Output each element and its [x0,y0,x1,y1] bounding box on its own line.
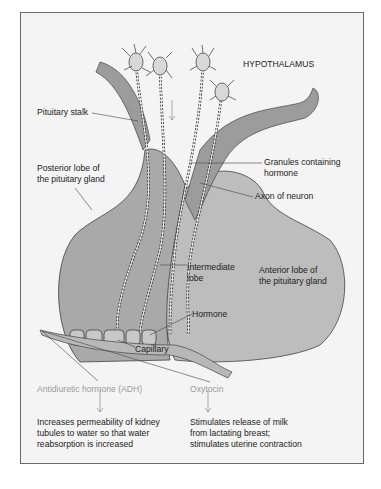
neuron-cells [129,53,229,101]
label-adh: Antidiuretic hormone (ADH) [37,384,142,395]
label-hormone: Hormone [192,309,227,320]
label-axon: Axon of neuron [255,191,313,202]
stalk-band-left [96,62,150,150]
pituitary-illustration [0,0,381,489]
label-granules: Granules containing hormone [264,157,340,179]
label-intermediate-lobe: Intermediate lobe [187,262,235,284]
oxytocin-effect-text: Stimulates release of milk from lactatin… [190,417,302,450]
label-capillary: Capillary [135,344,168,355]
adh-effect-text: Increases permeability of kidney tubules… [37,417,160,450]
label-oxytocin: Oxytocin [190,384,223,395]
label-posterior-lobe: Posterior lobe of the pituitary gland [37,163,105,185]
label-hypothalamus: HYPOTHALAMUS [243,59,314,70]
label-pituitary-stalk: Pituitary stalk [37,107,88,118]
label-anterior-lobe: Anterior lobe of the pituitary gland [259,265,327,287]
